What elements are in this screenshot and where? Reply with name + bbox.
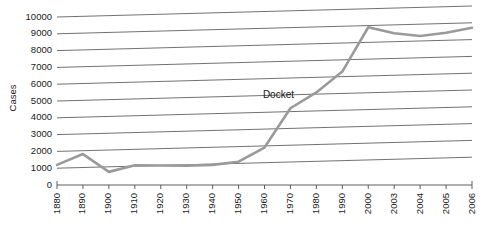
x-axis-tick-label: 1990 (336, 193, 347, 214)
y-axis-tick-label: 6000 (31, 78, 52, 89)
y-axis-tick-labels: 0100020003000400050006000700080009000100… (26, 11, 52, 190)
x-axis-tick-label: 1960 (258, 193, 269, 214)
x-axis-tick-label: 1970 (284, 193, 295, 214)
y-axis-tick-label: 1000 (31, 162, 52, 173)
y-axis-tick-label: 2000 (31, 145, 52, 156)
gridline (57, 73, 472, 84)
x-axis-tick-label: 2003 (388, 193, 399, 214)
x-axis-tick-label: 2006 (466, 193, 477, 214)
gridline (57, 23, 472, 34)
x-axis-tick-labels: 1880189019001910192019301940195019601970… (51, 193, 477, 214)
docket-cases-line-chart: 0100020003000400050006000700080009000100… (0, 0, 482, 231)
x-axis-tick-label: 1920 (154, 193, 165, 214)
x-axis-tick-label: 1890 (76, 193, 87, 214)
chart-container: 0100020003000400050006000700080009000100… (0, 0, 482, 231)
gridline (57, 124, 472, 135)
y-axis-tick-label: 0 (47, 179, 52, 190)
x-axis-tick-label: 1900 (102, 193, 113, 214)
x-axis-tick-label: 2005 (440, 193, 451, 214)
y-axis-tick-label: 10000 (26, 11, 52, 22)
x-axis-tick-label: 1940 (206, 193, 217, 214)
y-axis-tick-label: 4000 (31, 111, 52, 122)
gridlines (57, 6, 472, 168)
x-axis-tick-label: 2000 (362, 193, 373, 214)
y-axis-tick-label: 8000 (31, 44, 52, 55)
gridline (57, 40, 472, 51)
gridline (57, 56, 472, 67)
y-axis-tick-label: 3000 (31, 128, 52, 139)
x-axis-tick-label: 1950 (232, 193, 243, 214)
y-axis-tick-label: 9000 (31, 27, 52, 38)
x-axis-tick-label: 1910 (128, 193, 139, 214)
gridline (57, 6, 472, 17)
gridline (57, 107, 472, 118)
y-axis-tick-label: 7000 (31, 61, 52, 72)
x-axis-tick-label: 1930 (180, 193, 191, 214)
x-axis-tick-label: 1980 (310, 193, 321, 214)
y-axis-title: Cases (7, 84, 18, 111)
x-axis-tick-label: 1880 (51, 193, 62, 214)
gridline (57, 157, 472, 168)
x-axis (57, 181, 472, 189)
x-axis-tick-label: 2004 (414, 193, 425, 214)
series-annotation-docket: Docket (263, 89, 294, 100)
y-axis-tick-label: 5000 (31, 95, 52, 106)
